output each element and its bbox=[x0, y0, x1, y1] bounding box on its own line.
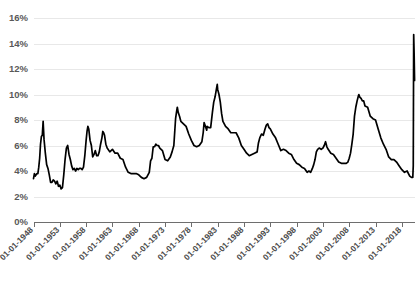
chart-canvas: 16%14%12%10%8%6%4%2%0% 01-01-194801-01-1… bbox=[0, 0, 420, 286]
y-tick-label: 6% bbox=[14, 140, 28, 151]
x-axis bbox=[34, 223, 416, 228]
y-tick-label: 14% bbox=[9, 38, 29, 49]
y-tick-label: 2% bbox=[14, 191, 28, 202]
y-tick-label: 4% bbox=[14, 165, 28, 176]
unemployment-rate-chart: 16%14%12%10%8%6%4%2%0% 01-01-194801-01-1… bbox=[0, 0, 420, 286]
y-tick-label: 12% bbox=[9, 63, 29, 74]
data-series bbox=[34, 35, 415, 189]
x-axis-labels: 01-01-194801-01-195301-01-195801-01-1963… bbox=[0, 225, 403, 263]
gridlines bbox=[34, 19, 416, 198]
y-tick-label: 16% bbox=[9, 12, 29, 23]
y-tick-label: 10% bbox=[9, 89, 29, 100]
y-axis-labels: 16%14%12%10%8%6%4%2%0% bbox=[9, 12, 29, 227]
series-line bbox=[34, 35, 415, 189]
y-tick-label: 8% bbox=[14, 114, 28, 125]
